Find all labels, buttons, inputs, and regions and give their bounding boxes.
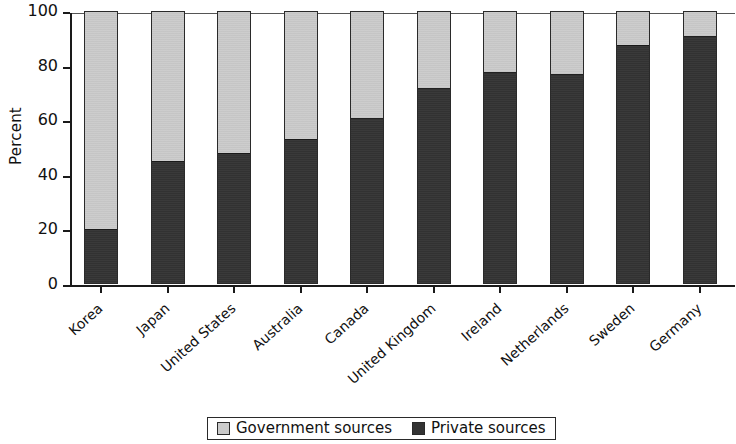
bar-segment-private <box>484 72 516 283</box>
x-tick <box>499 287 501 293</box>
x-category-label-text: Germany <box>646 300 705 355</box>
stacked-bar[interactable] <box>284 11 318 284</box>
legend-swatch-priv <box>412 422 425 435</box>
stacked-bar[interactable] <box>683 11 717 284</box>
x-category-label-text: Sweden <box>586 300 638 349</box>
y-tick-label: 60 <box>38 110 58 130</box>
y-axis-line <box>70 13 72 287</box>
x-tick <box>167 287 169 293</box>
x-tick <box>233 287 235 293</box>
stacked-bar[interactable] <box>550 11 584 284</box>
bar-segment-government <box>351 12 383 118</box>
y-axis-label: Percent <box>7 76 25 196</box>
x-axis-line <box>70 285 735 287</box>
bar-segment-private <box>551 74 583 283</box>
legend-item[interactable]: Private sources <box>412 420 546 437</box>
bar-segment-private <box>85 229 117 283</box>
stacked-bar[interactable] <box>217 11 251 284</box>
x-tick <box>433 287 435 293</box>
y-tick: 100 <box>63 12 70 14</box>
chart-legend: Government sourcesPrivate sources <box>207 417 556 440</box>
legend-swatch-gov <box>217 422 230 435</box>
x-category-label-text: Australia <box>248 300 305 353</box>
bar-segment-government <box>218 12 250 153</box>
bar-segment-government <box>617 12 649 45</box>
y-tick-label: 0 <box>48 274 58 294</box>
legend-label: Private sources <box>431 420 546 437</box>
stacked-bar[interactable] <box>84 11 118 284</box>
bar-segment-private <box>218 153 250 283</box>
x-tick <box>366 287 368 293</box>
y-tick: 40 <box>63 176 70 178</box>
x-tick <box>100 287 102 293</box>
legend-item[interactable]: Government sources <box>217 420 392 437</box>
y-tick-label: 40 <box>38 165 58 185</box>
y-tick: 0 <box>63 285 70 287</box>
bar-segment-government <box>285 12 317 139</box>
bar-segment-private <box>152 161 184 283</box>
bar-segment-government <box>418 12 450 88</box>
stacked-bar[interactable] <box>483 11 517 284</box>
bar-segment-private <box>285 139 317 283</box>
bar-segment-private <box>418 88 450 283</box>
bar-segment-government <box>85 12 117 229</box>
stacked-bar[interactable] <box>616 11 650 284</box>
legend-label: Government sources <box>236 420 392 437</box>
stacked-bar[interactable] <box>151 11 185 284</box>
bar-segment-private <box>684 36 716 283</box>
y-tick-label: 100 <box>27 1 58 21</box>
bar-segment-government <box>152 12 184 161</box>
plot-area: 020406080100 <box>70 13 734 286</box>
x-tick <box>566 287 568 293</box>
x-category-label-text: Canada <box>321 300 371 348</box>
x-category-label-text: Netherlands <box>497 300 571 369</box>
y-tick-label: 20 <box>38 219 58 239</box>
chart-figure: Percent 020406080100 KoreaJapanUnited St… <box>0 0 736 444</box>
stacked-bar[interactable] <box>417 11 451 284</box>
x-tick <box>300 287 302 293</box>
y-tick-label: 80 <box>38 56 58 76</box>
bar-segment-private <box>351 118 383 283</box>
bar-segment-government <box>684 12 716 36</box>
bar-segment-government <box>484 12 516 72</box>
bar-segment-private <box>617 45 649 283</box>
x-tick <box>699 287 701 293</box>
bar-segment-government <box>551 12 583 74</box>
stacked-bar[interactable] <box>350 11 384 284</box>
x-category-label-text: Japan <box>132 300 172 338</box>
y-tick: 60 <box>63 121 70 123</box>
y-tick: 80 <box>63 67 70 69</box>
x-tick <box>632 287 634 293</box>
y-tick: 20 <box>63 230 70 232</box>
x-category-label-text: Korea <box>65 300 105 338</box>
x-category-label-text: Ireland <box>458 300 505 344</box>
